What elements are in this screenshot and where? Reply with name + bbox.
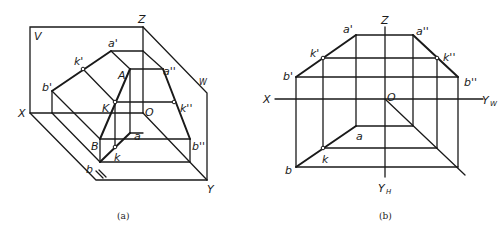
figure-b: Z X O Y W Y H a' k' b' a'' k'' b'' a k b…	[262, 14, 498, 221]
label-A: A	[117, 69, 126, 82]
projection-diagram: V Z W X O Y a' k' b' A K B a'' k'' b'' a…	[0, 0, 504, 231]
label-a: a	[356, 130, 363, 143]
label-b-dprime: b''	[464, 76, 477, 89]
label-b-prime: b'	[283, 70, 293, 83]
point-k-dprime	[172, 100, 176, 104]
label-Yh-sub: H	[386, 188, 392, 196]
point-k-dprime	[435, 56, 439, 60]
label-k-dprime: k''	[443, 51, 455, 64]
projector	[52, 91, 100, 139]
projector	[83, 69, 115, 102]
label-O: O	[387, 91, 396, 104]
caption-a: (a)	[117, 211, 129, 221]
point-k	[321, 146, 325, 150]
label-X: X	[17, 107, 26, 120]
label-Yh: Y	[378, 182, 386, 195]
caption-b: (b)	[379, 211, 392, 221]
label-a-dprime: a''	[163, 65, 176, 78]
projector	[143, 51, 163, 69]
label-k-prime: k'	[310, 47, 319, 60]
label-Y: Y	[207, 183, 215, 196]
label-X: X	[262, 93, 271, 106]
line-ab-v-projection	[296, 35, 356, 77]
label-K: K	[102, 102, 110, 115]
projector	[52, 113, 100, 162]
point-k	[113, 145, 117, 149]
point-k-prime	[321, 56, 325, 60]
label-Z: Z	[380, 14, 389, 27]
label-b: b	[285, 164, 292, 177]
figure-a: V Z W X O Y a' k' b' A K B a'' k'' b'' a…	[17, 13, 215, 221]
h-plane	[30, 113, 207, 180]
label-b-dprime: b''	[192, 140, 205, 153]
label-V: V	[34, 30, 43, 43]
label-O: O	[145, 106, 154, 119]
label-k: k	[322, 153, 329, 166]
label-k-prime: k'	[74, 55, 83, 68]
label-a-dprime: a''	[416, 25, 429, 38]
label-a: a	[134, 130, 141, 143]
label-W: W	[199, 78, 208, 87]
label-Yw-sub: W	[490, 100, 498, 108]
label-Z: Z	[137, 13, 146, 26]
projector	[111, 51, 130, 69]
label-a-prime: a'	[343, 23, 353, 36]
label-b: b	[86, 163, 93, 176]
45-degree-line	[385, 99, 465, 175]
label-b-prime: b'	[42, 81, 52, 94]
label-a-prime: a'	[108, 37, 118, 50]
label-k-dprime: k''	[180, 102, 192, 115]
label-B: B	[91, 140, 99, 153]
point-K	[113, 100, 117, 104]
v-plane	[30, 27, 143, 113]
label-Yw: Y	[482, 94, 490, 107]
label-k: k	[114, 151, 121, 164]
